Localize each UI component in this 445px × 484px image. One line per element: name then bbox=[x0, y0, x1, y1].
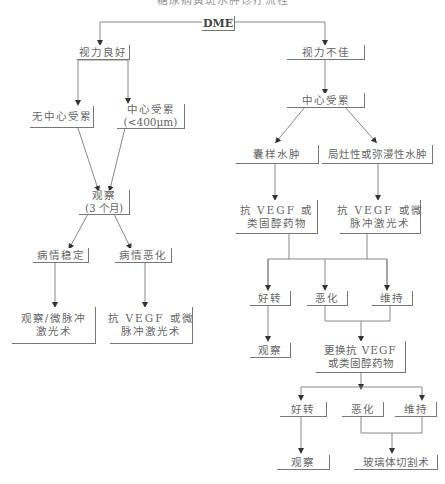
node-improve-2: 好转 bbox=[280, 402, 327, 417]
node-focal-diffuse-edema: 局灶性或弥漫性水肿 bbox=[322, 145, 433, 164]
node-observe-laser: 观察/微脉冲 激光术 bbox=[12, 307, 96, 344]
node-antivegf-laser-right: 抗 VEGF 或微 脉冲激光术 bbox=[340, 200, 421, 234]
node-worse-left: 病情恶化 bbox=[115, 248, 172, 263]
node-non-central: 无中心受累 bbox=[30, 106, 94, 128]
node-poor-vision: 视力不佳 bbox=[287, 45, 365, 60]
node-switch-treatment: 更换抗 VEGF 或类固醇药物 bbox=[316, 341, 406, 373]
node-improve-1: 好转 bbox=[250, 291, 291, 306]
node-observe-3-months: 观察 (3 个月) bbox=[79, 190, 130, 215]
node-central-small: 中心受累 (<400μm) bbox=[117, 104, 185, 129]
node-worse-1: 恶化 bbox=[307, 291, 348, 306]
node-maintain-1: 维持 bbox=[372, 291, 413, 306]
node-observe-r2: 观察 bbox=[277, 455, 330, 470]
node-central: 中心受累 bbox=[287, 93, 365, 108]
node-cystoid-edema: 囊样水肿 bbox=[236, 145, 319, 164]
node-observe-r1: 观察 bbox=[250, 343, 291, 358]
node-worse-2: 恶化 bbox=[342, 402, 384, 417]
node-antivegf-laser-left: 抗 VEGF 或微 脉冲激光术 bbox=[110, 307, 193, 344]
node-good-vision: 视力良好 bbox=[77, 45, 130, 60]
node-antivegf-steroid: 抗 VEGF 或 类固醇药物 bbox=[236, 200, 318, 234]
node-dme: DME bbox=[202, 16, 235, 31]
node-stable: 病情稳定 bbox=[33, 248, 89, 263]
node-maintain-2: 维持 bbox=[395, 402, 437, 417]
node-vitrectomy: 玻璃体切割术 bbox=[354, 455, 438, 470]
